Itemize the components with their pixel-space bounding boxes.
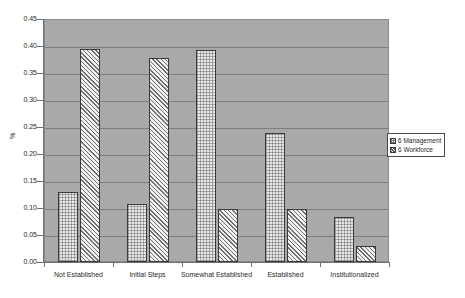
- y-axis-tick-label: 0.10: [3, 204, 37, 212]
- y-axis-tick-label: 0.00: [3, 258, 37, 266]
- bar: [127, 204, 147, 262]
- x-axis-label: Institutionalized: [330, 270, 378, 279]
- y-axis-tick: [37, 100, 43, 101]
- legend-item-management[interactable]: 6 Management: [390, 136, 441, 145]
- y-axis-tick-label: 0.45: [3, 15, 37, 23]
- y-axis-tick-label: 0.40: [3, 42, 37, 50]
- y-axis-tick-label: 0.20: [3, 150, 37, 158]
- y-axis-line: [43, 19, 44, 263]
- x-axis-label: Initial Steps: [129, 270, 165, 279]
- y-axis-tick: [37, 73, 43, 74]
- x-axis-tick: [251, 263, 252, 267]
- bar: [80, 49, 100, 262]
- x-axis-line: [43, 262, 390, 263]
- bar-chart: 0.450.400.350.300.250.200.150.100.050.00…: [0, 0, 465, 298]
- bar: [265, 133, 285, 262]
- y-axis-tick-label: 0.15: [3, 177, 37, 185]
- bar: [356, 246, 376, 262]
- x-axis-tick: [320, 263, 321, 267]
- legend-swatch-icon-management: [390, 138, 396, 144]
- legend-label-management: 6 Management: [398, 137, 441, 145]
- x-axis-tick: [44, 263, 45, 267]
- legend-item-workforce[interactable]: 6 Workforce: [390, 145, 441, 154]
- x-axis-label: Somewhat Established: [181, 270, 252, 279]
- x-axis-label: Not Established: [54, 270, 103, 279]
- x-axis-tick: [389, 263, 390, 267]
- y-axis-tick-label: 0.35: [3, 69, 37, 77]
- bar: [196, 50, 216, 262]
- x-axis-tick: [182, 263, 183, 267]
- y-axis-tick: [37, 19, 43, 20]
- x-axis-label: Established: [267, 270, 303, 279]
- gridline: [45, 47, 388, 48]
- y-axis-tick-label: 0.30: [3, 96, 37, 104]
- y-axis-tick-label: 0.25: [3, 123, 37, 131]
- y-axis-tick-label: 0.05: [3, 231, 37, 239]
- legend-swatch-icon-workforce: [390, 147, 396, 153]
- x-axis-tick: [113, 263, 114, 267]
- y-axis-tick: [37, 235, 43, 236]
- y-axis-tick: [37, 208, 43, 209]
- bar: [58, 192, 78, 262]
- bar: [334, 217, 354, 262]
- legend: 6 Management 6 Workforce: [387, 133, 445, 157]
- y-axis-tick: [37, 154, 43, 155]
- legend-label-workforce: 6 Workforce: [398, 146, 433, 154]
- bar: [287, 209, 307, 262]
- y-axis-tick: [37, 181, 43, 182]
- y-axis-title: %: [9, 133, 16, 139]
- bar: [149, 58, 169, 262]
- y-axis-tick: [37, 127, 43, 128]
- bar: [218, 209, 238, 262]
- y-axis-tick: [37, 46, 43, 47]
